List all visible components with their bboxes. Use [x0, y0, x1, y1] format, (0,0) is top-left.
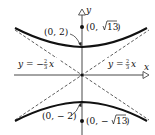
origin-point	[80, 73, 83, 76]
svg-text:x: x	[131, 59, 136, 69]
vertex-upper-label: (0, 2)	[44, 27, 68, 37]
svg-text:(0,: (0,	[86, 22, 98, 32]
hyperbola-diagram: y x (0, 2) (0, − 2) (0, 13 ) (0, − 13 ) …	[0, 0, 155, 135]
svg-text:3: 3	[126, 64, 129, 70]
y-axis-label: y	[85, 5, 92, 15]
focus-lower-label: (0, − 13 )	[86, 115, 130, 126]
vertex-lower-label: (0, − 2)	[42, 111, 77, 121]
svg-text:y =: y =	[107, 59, 124, 69]
svg-text:): )	[126, 116, 130, 126]
x-axis-label: x	[144, 62, 149, 72]
svg-text:3: 3	[44, 64, 47, 70]
asymptote-positive-label: y = 2 3 x	[106, 58, 138, 70]
x-axis-arrow-icon	[143, 72, 149, 79]
focus-upper-point	[80, 25, 84, 29]
y-axis-arrow-icon	[79, 9, 86, 15]
focus-upper-label: (0, 13 )	[86, 21, 121, 32]
vertex-upper-leader	[70, 34, 80, 45]
svg-text:y = −: y = −	[17, 59, 44, 69]
svg-text:): )	[117, 22, 121, 32]
asymptote-negative-label: y = − 2 3 x	[16, 58, 60, 70]
focus-lower-point	[80, 119, 84, 123]
svg-text:x: x	[49, 59, 54, 69]
svg-text:(0, −: (0, −	[86, 116, 109, 126]
